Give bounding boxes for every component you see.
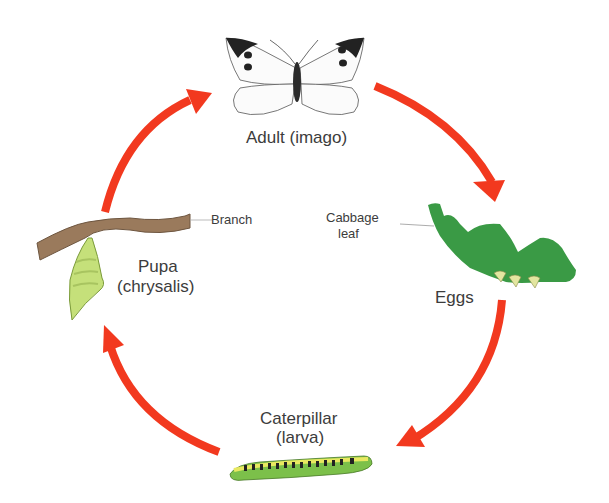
arrow-eggs-to-larva xyxy=(396,300,502,447)
caterpillar-icon xyxy=(230,456,372,480)
cabbage-leaf-annotation-line1: Cabbage xyxy=(326,210,379,226)
cabbage-leaf-icon xyxy=(400,203,576,283)
cabbage-leaf-annotation-line2: leaf xyxy=(338,226,359,242)
arrow-larva-to-pupa xyxy=(103,325,219,452)
butterfly-icon xyxy=(226,38,364,115)
chrysalis-icon xyxy=(69,238,103,320)
life-cycle-diagram: Adult (imago) Cabbage leaf Eggs Caterpil… xyxy=(0,0,609,503)
pupa-label-line2: (chrysalis) xyxy=(117,277,194,297)
arrow-adult-to-eggs xyxy=(375,86,505,202)
caterpillar-label-line1: Caterpillar xyxy=(260,409,337,429)
adult-label: Adult (imago) xyxy=(246,128,347,148)
branch-annotation: Branch xyxy=(211,212,252,228)
leaf-leader-line xyxy=(400,224,434,226)
eggs-label: Eggs xyxy=(435,288,474,308)
arrow-pupa-to-adult xyxy=(105,89,212,212)
pupa-label-line1: Pupa xyxy=(138,257,178,277)
caterpillar-label-line2: (larva) xyxy=(276,428,324,448)
branch-icon xyxy=(37,214,212,260)
